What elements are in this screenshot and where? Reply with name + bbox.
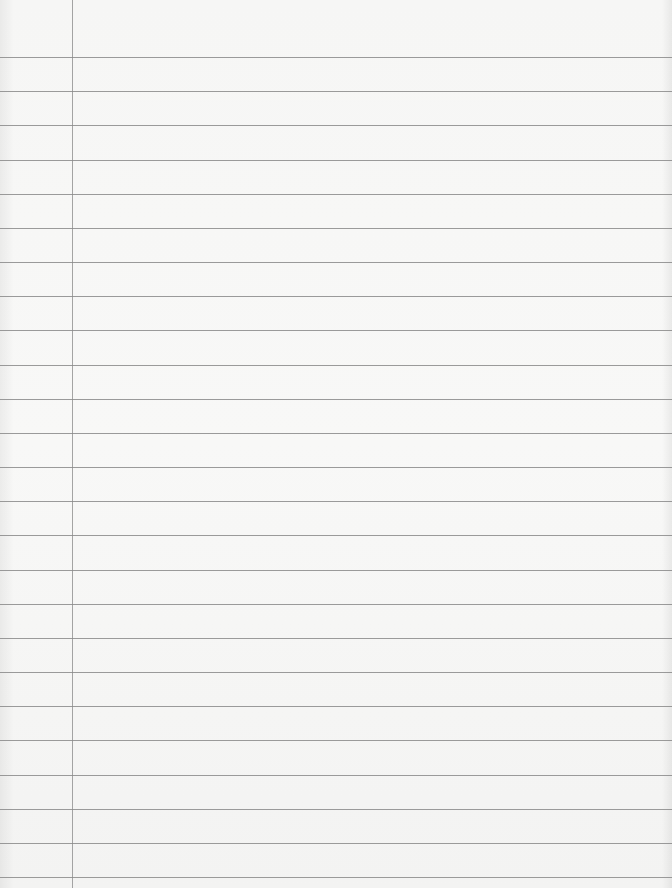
ruled-line [0,330,672,331]
ruled-line [0,125,672,126]
ruled-line [0,467,672,468]
lined-paper-sheet [0,0,672,888]
ruled-line [0,535,672,536]
ruled-line [0,399,672,400]
ruled-line [0,57,672,58]
ruled-line [0,604,672,605]
ruled-line [0,877,672,878]
ruled-line [0,740,672,741]
ruled-line [0,570,672,571]
ruled-line [0,672,672,673]
ruled-line [0,433,672,434]
ruled-line [0,809,672,810]
ruled-line [0,160,672,161]
ruled-line [0,262,672,263]
ruled-line [0,296,672,297]
ruled-line [0,194,672,195]
ruled-line [0,228,672,229]
ruled-line [0,638,672,639]
margin-line [72,0,73,888]
ruled-line [0,501,672,502]
ruled-line [0,706,672,707]
ruled-line [0,775,672,776]
ruled-line [0,843,672,844]
ruled-line [0,91,672,92]
ruled-line [0,365,672,366]
